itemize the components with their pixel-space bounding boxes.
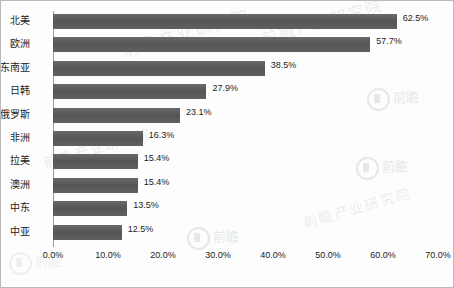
x-axis-tick-label: 40.0% [260,250,286,260]
bar-value-label: 15.4% [144,177,170,187]
x-axis-tick-label: 0.0% [43,250,64,260]
plot-area: 北美62.5%欧洲57.7%东南亚38.5%日韩27.9%俄罗斯23.1%非洲1… [53,11,438,246]
bar-row: 东南亚38.5% [53,58,438,84]
category-label: 欧洲 [0,35,30,50]
category-label: 拉美 [0,152,30,167]
bar-value-label: 62.5% [403,13,429,23]
bar-value-label: 57.7% [376,36,402,46]
bar-value-label: 27.9% [212,83,238,93]
bar-value-label: 23.1% [186,107,212,117]
bar-row: 拉美15.4% [53,151,438,177]
x-axis-tick-label: 60.0% [370,250,396,260]
bar-row: 中亚12.5% [53,222,438,248]
category-label: 中亚 [0,223,30,238]
bar [53,131,143,146]
bar [53,37,370,52]
category-label: 日韩 [0,82,30,97]
category-label: 中东 [0,199,30,214]
bar-row: 中东13.5% [53,198,438,224]
bar-value-label: 15.4% [144,153,170,163]
bar-value-label: 38.5% [271,60,297,70]
x-axis-tick-label: 20.0% [150,250,176,260]
category-label: 澳洲 [0,176,30,191]
bar-row: 欧洲57.7% [53,34,438,60]
bar [53,108,180,123]
bar [53,178,138,193]
bar-value-label: 12.5% [128,224,154,234]
bar [53,61,265,76]
bar-row: 北美62.5% [53,11,438,37]
category-label: 非洲 [0,129,30,144]
x-axis-tick-label: 30.0% [205,250,231,260]
category-label: 北美 [0,12,30,27]
bar-value-label: 16.3% [149,130,175,140]
bar-row: 日韩27.9% [53,81,438,107]
bar [53,14,397,29]
bar-chart-figure: 前瞻产业研究院 前瞻产业研究院 前瞻产业研究院 前瞻产业研究院 前瞻 前瞻 前瞻… [0,0,454,288]
bar [53,201,127,216]
bar-row: 澳洲15.4% [53,175,438,201]
bar-row: 俄罗斯23.1% [53,105,438,131]
x-axis-ticks: 0.0%10.0%20.0%30.0%40.0%50.0%60.0%70.0% [1,247,454,267]
category-label: 东南亚 [0,59,30,74]
category-label: 俄罗斯 [0,106,30,121]
bar-row: 非洲16.3% [53,128,438,154]
bar [53,84,206,99]
x-axis-tick-label: 70.0% [425,250,451,260]
bar [53,225,122,240]
x-axis-tick-label: 10.0% [95,250,121,260]
bar [53,154,138,169]
x-axis-tick-label: 50.0% [315,250,341,260]
bar-value-label: 13.5% [133,200,159,210]
